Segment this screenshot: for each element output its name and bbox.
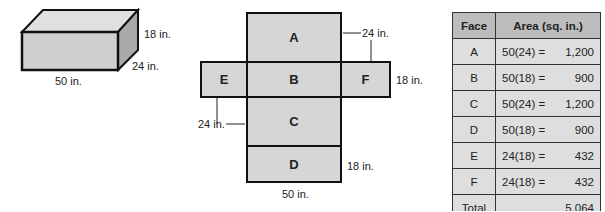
area-cell: 50(18) =900 bbox=[496, 65, 601, 91]
face-cell: A bbox=[453, 39, 496, 65]
area-expr: 50(18) = bbox=[502, 72, 545, 84]
area-value: 432 bbox=[575, 150, 594, 162]
net-50-bottom-label: 50 in. bbox=[282, 188, 309, 200]
area-cell: 50(18) =900 bbox=[496, 117, 601, 143]
total-label: Total bbox=[453, 195, 496, 212]
area-value: 432 bbox=[575, 176, 594, 188]
area-expr: 24(18) = bbox=[502, 150, 545, 162]
net-24-left-label: 24 in. bbox=[198, 118, 225, 130]
net-18-bottom-label: 18 in. bbox=[347, 160, 374, 172]
table-row: F 24(18) =432 bbox=[453, 169, 601, 195]
area-cell: 50(24) =1,200 bbox=[496, 39, 601, 65]
header-area: Area (sq. in.) bbox=[496, 13, 601, 39]
area-cell: 24(18) =432 bbox=[496, 169, 601, 195]
face-cell: D bbox=[453, 117, 496, 143]
table-row: B 50(18) =900 bbox=[453, 65, 601, 91]
area-value: 1,200 bbox=[565, 98, 594, 110]
table-row: D 50(18) =900 bbox=[453, 117, 601, 143]
table-header-row: Face Area (sq. in.) bbox=[453, 13, 601, 39]
table-row: E 24(18) =432 bbox=[453, 143, 601, 169]
net-18-right-label: 18 in. bbox=[396, 74, 423, 86]
area-value: 900 bbox=[575, 124, 594, 136]
area-expr: 24(18) = bbox=[502, 176, 545, 188]
face-cell: F bbox=[453, 169, 496, 195]
table-total-row: Total 5,064 bbox=[453, 195, 601, 212]
area-expr: 50(24) = bbox=[502, 46, 545, 58]
face-cell: E bbox=[453, 143, 496, 169]
area-value: 900 bbox=[575, 72, 594, 84]
area-value: 1,200 bbox=[565, 46, 594, 58]
face-cell: B bbox=[453, 65, 496, 91]
net-24-top-label: 24 in. bbox=[362, 27, 389, 39]
table-row: C 50(24) =1,200 bbox=[453, 91, 601, 117]
area-table: Face Area (sq. in.) A 50(24) =1,200 B 50… bbox=[452, 12, 601, 211]
table-row: A 50(24) =1,200 bbox=[453, 39, 601, 65]
header-face: Face bbox=[453, 13, 496, 39]
area-cell: 50(24) =1,200 bbox=[496, 91, 601, 117]
area-expr: 50(18) = bbox=[502, 124, 545, 136]
area-expr: 50(24) = bbox=[502, 98, 545, 110]
total-value: 5,064 bbox=[496, 195, 601, 212]
area-cell: 24(18) =432 bbox=[496, 143, 601, 169]
face-cell: C bbox=[453, 91, 496, 117]
